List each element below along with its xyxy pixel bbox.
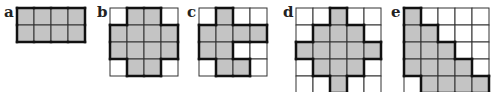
empty-cell (296, 76, 313, 92)
shaded-cell (216, 8, 233, 25)
shaded-cell (233, 59, 250, 76)
panel-e-grid (402, 6, 491, 92)
shaded-cell (250, 25, 267, 42)
shaded-cell (127, 42, 144, 59)
shaded-cell (34, 25, 51, 42)
shaded-cell (404, 59, 421, 76)
shaded-cell (455, 76, 472, 92)
empty-cell (364, 76, 381, 92)
empty-cell (472, 8, 489, 25)
empty-cell (347, 76, 364, 92)
shaded-cell (110, 25, 127, 42)
empty-cell (347, 8, 364, 25)
empty-cell (199, 8, 216, 25)
shaded-cell (199, 25, 216, 42)
shaded-cell (296, 42, 313, 59)
empty-cell (472, 42, 489, 59)
empty-cell (250, 42, 267, 59)
empty-cell (199, 59, 216, 76)
shaded-cell (421, 76, 438, 92)
shaded-cell (144, 42, 161, 59)
shaded-cell (330, 25, 347, 42)
shaded-cell (233, 25, 250, 42)
shaded-cell (68, 25, 85, 42)
panel-b-label: b (97, 4, 108, 20)
empty-cell (438, 8, 455, 25)
panel-a-grid (15, 6, 87, 44)
shaded-cell (34, 8, 51, 25)
empty-cell (250, 8, 267, 25)
empty-cell (421, 8, 438, 25)
shaded-cell (313, 59, 330, 76)
shaded-cell (68, 8, 85, 25)
shaded-cell (161, 25, 178, 42)
shaded-cell (127, 25, 144, 42)
panel-c-label: c (187, 4, 196, 20)
panel-e-label: e (391, 4, 401, 20)
shaded-cell (144, 8, 161, 25)
empty-cell (110, 59, 127, 76)
empty-cell (438, 25, 455, 42)
shaded-cell (161, 42, 178, 59)
shaded-cell (404, 42, 421, 59)
empty-cell (455, 42, 472, 59)
empty-cell (455, 8, 472, 25)
panel-a-label: a (4, 4, 14, 20)
shaded-cell (330, 42, 347, 59)
panel-d-label: d (283, 4, 294, 20)
shaded-cell (364, 42, 381, 59)
shaded-cell (347, 25, 364, 42)
shaded-cell (347, 42, 364, 59)
empty-cell (161, 59, 178, 76)
shaded-cell (216, 42, 233, 59)
shaded-cell (51, 8, 68, 25)
empty-cell (364, 8, 381, 25)
shaded-cell (421, 42, 438, 59)
empty-cell (161, 8, 178, 25)
empty-cell (296, 25, 313, 42)
shaded-cell (17, 25, 34, 42)
empty-cell (404, 76, 421, 92)
empty-cell (364, 59, 381, 76)
shaded-cell (313, 25, 330, 42)
empty-cell (296, 59, 313, 76)
shaded-cell (455, 59, 472, 76)
empty-cell (313, 8, 330, 25)
shaded-cell (216, 25, 233, 42)
shaded-cell (472, 76, 489, 92)
shaded-cell (421, 59, 438, 76)
shaded-cell (313, 42, 330, 59)
shaded-cell (216, 59, 233, 76)
shaded-cell (51, 25, 68, 42)
shaded-cell (110, 42, 127, 59)
empty-cell (313, 76, 330, 92)
panel-d-grid (294, 6, 383, 92)
empty-cell (472, 59, 489, 76)
shaded-cell (421, 25, 438, 42)
empty-cell (250, 59, 267, 76)
shaded-cell (127, 8, 144, 25)
shaded-cell (438, 59, 455, 76)
shaded-cell (404, 8, 421, 25)
shaded-cell (17, 8, 34, 25)
empty-cell (455, 25, 472, 42)
shaded-cell (144, 59, 161, 76)
panel-b-grid (108, 6, 180, 78)
shaded-cell (438, 42, 455, 59)
shaded-cell (404, 25, 421, 42)
shaded-cell (199, 42, 216, 59)
empty-cell (110, 8, 127, 25)
shaded-cell (347, 59, 364, 76)
empty-cell (472, 25, 489, 42)
shaded-cell (144, 25, 161, 42)
shaded-cell (330, 76, 347, 92)
shaded-cell (330, 8, 347, 25)
shaded-cell (330, 59, 347, 76)
shaded-cell (127, 59, 144, 76)
empty-cell (233, 42, 250, 59)
empty-cell (296, 8, 313, 25)
shaded-cell (438, 76, 455, 92)
panel-c-grid (197, 6, 269, 78)
empty-cell (233, 8, 250, 25)
empty-cell (364, 25, 381, 42)
